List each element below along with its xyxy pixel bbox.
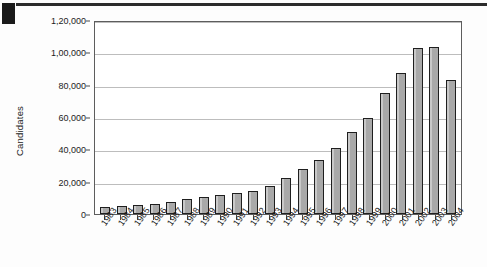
x-label-slot: 1988: [179, 221, 196, 265]
x-label-slot: 2002: [410, 221, 427, 265]
y-axis-title: Candidates: [14, 96, 28, 166]
bar-slot: [196, 22, 212, 214]
bar-slot: [294, 22, 310, 214]
x-label-slot: 1993: [261, 221, 278, 265]
plot-area: [94, 21, 462, 215]
x-label-slot: 2003: [427, 221, 444, 265]
x-label-slot: 2001: [394, 221, 411, 265]
y-tick-mark: [86, 118, 90, 119]
x-axis: 1983198419851986198719881989199019911992…: [94, 215, 462, 267]
bar: [331, 148, 341, 214]
bar: [413, 48, 423, 214]
bar-slot: [130, 22, 146, 214]
bar-slot: [426, 22, 442, 214]
y-tick-mark: [86, 182, 90, 183]
y-tick-label: 40,000: [58, 146, 86, 155]
bar-slot: [443, 22, 459, 214]
y-tick-mark: [86, 85, 90, 86]
bar: [363, 118, 373, 214]
y-tick-mark: [86, 21, 90, 22]
bar-slot: [327, 22, 343, 214]
bar-chart: Candidates 1,20,0001,00,00080,00060,0004…: [0, 0, 487, 267]
y-axis-tick-labels: 1,20,0001,00,00080,00060,00040,00020,000…: [28, 0, 90, 267]
bar-slot: [146, 22, 162, 214]
bar-slot: [410, 22, 426, 214]
bar-slot: [229, 22, 245, 214]
bar-slot: [393, 22, 409, 214]
x-label-slot: 2000: [377, 221, 394, 265]
x-label-slot: 1987: [162, 221, 179, 265]
bar: [347, 132, 357, 214]
x-label-slot: 2004: [443, 221, 460, 265]
bar: [396, 73, 406, 214]
y-tick-mark: [86, 150, 90, 151]
x-label-slot: 1991: [228, 221, 245, 265]
bar-slot: [311, 22, 327, 214]
y-tick-mark: [86, 53, 90, 54]
x-label-slot: 1996: [311, 221, 328, 265]
x-label-slot: 1989: [195, 221, 212, 265]
x-label-slot: 1994: [278, 221, 295, 265]
x-label-slot: 1983: [96, 221, 113, 265]
bar-slot: [360, 22, 376, 214]
bar: [380, 93, 390, 214]
bar-slot: [278, 22, 294, 214]
x-label-slot: 1999: [361, 221, 378, 265]
bar-slot: [344, 22, 360, 214]
bar-slot: [245, 22, 261, 214]
bar: [429, 47, 439, 214]
x-label-slot: 1998: [344, 221, 361, 265]
bar-slot: [163, 22, 179, 214]
bar: [314, 160, 324, 214]
bar-slot: [262, 22, 278, 214]
bar-series: [95, 22, 461, 214]
bar-slot: [97, 22, 113, 214]
y-tick-label: 60,000: [58, 114, 86, 123]
bar-slot: [179, 22, 195, 214]
x-label-slot: 1992: [245, 221, 262, 265]
bar: [298, 169, 308, 214]
bar-slot: [113, 22, 129, 214]
x-label-slot: 1985: [129, 221, 146, 265]
x-label-slot: 1986: [146, 221, 163, 265]
x-label-slot: 1995: [295, 221, 312, 265]
y-tick-label: 1,20,000: [51, 17, 86, 26]
bar: [446, 80, 456, 214]
x-axis-tick-labels: 1983198419851986198719881989199019911992…: [94, 221, 462, 265]
x-label-slot: 1984: [113, 221, 130, 265]
y-tick-label: 1,00,000: [51, 49, 86, 58]
y-tick-label: 80,000: [58, 81, 86, 90]
y-tick-label: 20,000: [58, 178, 86, 187]
x-label-slot: 1997: [328, 221, 345, 265]
bar-slot: [377, 22, 393, 214]
y-tick-mark: [86, 215, 90, 216]
bar-slot: [212, 22, 228, 214]
x-label-slot: 1990: [212, 221, 229, 265]
